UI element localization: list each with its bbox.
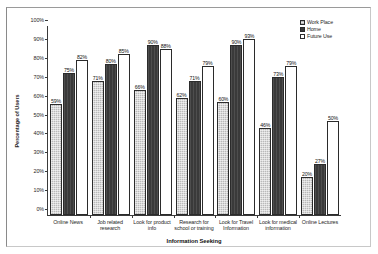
legend-label: Home <box>307 26 321 32</box>
plot-area: 0%10%20%30%40%50%60%70%80%90%100% 59%75%… <box>47 26 341 216</box>
bar-value-label: 59% <box>51 98 61 104</box>
bar[interactable]: 79% <box>285 66 297 215</box>
chart-page: Percentage of Users 0%10%20%30%40%50%60%… <box>0 0 378 254</box>
bar-value-label: 90% <box>148 39 158 45</box>
bar[interactable]: 85% <box>118 54 130 215</box>
legend-item[interactable]: Future Use <box>300 33 333 39</box>
bar-group: 71%80%85% <box>90 26 132 215</box>
legend-label: Future Use <box>307 33 332 39</box>
bar-groups: 59%75%82%71%80%85%66%90%88%62%71%79%60%9… <box>48 26 341 215</box>
bar-value-label: 50% <box>328 115 338 121</box>
bar-value-label: 66% <box>135 84 145 90</box>
legend-swatch-icon <box>300 20 305 25</box>
bar-value-label: 79% <box>286 60 296 66</box>
bar-value-label: 90% <box>231 39 241 45</box>
x-axis-title: Information Seeking <box>47 238 341 244</box>
x-axis-categories: Online NewsJob related researchLook for … <box>47 219 341 232</box>
y-axis-tick: 10% <box>34 187 49 193</box>
x-axis-category-label: Look for medical information <box>257 219 299 232</box>
bar-value-label: 75% <box>64 67 74 73</box>
bar[interactable]: 88% <box>160 49 172 215</box>
bar[interactable]: 62% <box>176 98 188 215</box>
bar-value-label: 60% <box>218 96 228 102</box>
bar[interactable]: 93% <box>243 39 255 215</box>
y-axis-tick: 50% <box>34 112 49 118</box>
bar[interactable]: 80% <box>105 64 117 215</box>
y-axis-tick: 30% <box>34 149 49 155</box>
bar-value-label: 85% <box>119 48 129 54</box>
bar-value-label: 88% <box>161 43 171 49</box>
bar[interactable]: 50% <box>327 121 339 216</box>
bar[interactable]: 46% <box>259 128 271 215</box>
legend-item[interactable]: Home <box>300 26 333 32</box>
bar-group: 20%27%50% <box>299 26 341 215</box>
bar[interactable]: 75% <box>63 73 75 215</box>
bar-group: 60%90%93% <box>215 26 257 215</box>
bar-group: 46%73%79% <box>257 26 299 215</box>
legend-swatch-icon <box>300 34 305 39</box>
bar[interactable]: 66% <box>134 90 146 215</box>
bar[interactable]: 71% <box>189 81 201 215</box>
bar-group: 62%71%79% <box>174 26 216 215</box>
bar[interactable]: 73% <box>272 77 284 215</box>
y-axis-title: Percentage of Users <box>14 26 26 216</box>
y-axis-tick: 90% <box>34 36 49 42</box>
bar[interactable]: 71% <box>92 81 104 215</box>
y-axis-tick: 0% <box>36 206 48 212</box>
bar-value-label: 27% <box>315 158 325 164</box>
bar[interactable]: 90% <box>230 45 242 215</box>
bar-value-label: 82% <box>77 54 87 60</box>
chart-legend: Work PlaceHomeFuture Use <box>300 19 333 39</box>
bar[interactable]: 60% <box>217 102 229 215</box>
bar-value-label: 20% <box>302 171 312 177</box>
y-axis-tick: 20% <box>34 168 49 174</box>
legend-label: Work Place <box>307 19 333 25</box>
legend-swatch-icon <box>300 27 305 32</box>
x-axis-category-label: Job related research <box>89 219 131 232</box>
y-axis-tick: 60% <box>34 93 49 99</box>
bar-value-label: 93% <box>244 33 254 39</box>
bar[interactable]: 82% <box>76 60 88 215</box>
bar[interactable]: 20% <box>301 177 313 215</box>
bar-value-label: 73% <box>273 71 283 77</box>
bar-value-label: 46% <box>260 122 270 128</box>
bar[interactable]: 59% <box>50 104 62 216</box>
legend-item[interactable]: Work Place <box>300 19 333 25</box>
bar-value-label: 80% <box>106 58 116 64</box>
bar[interactable]: 27% <box>314 164 326 215</box>
x-axis-category-label: Look for Travel Information <box>215 219 257 232</box>
bar-value-label: 71% <box>190 75 200 81</box>
bar[interactable]: 90% <box>147 45 159 215</box>
x-axis-category-label: Research for school or training <box>173 219 215 232</box>
y-axis-tick: 80% <box>34 55 49 61</box>
bar[interactable]: 79% <box>202 66 214 215</box>
x-axis-category-label: Online News <box>47 219 89 232</box>
x-axis-category-label: Look for product info <box>131 219 173 232</box>
bar-value-label: 62% <box>177 92 187 98</box>
y-axis-tick: 100% <box>31 17 48 23</box>
bar-group: 66%90%88% <box>132 26 174 215</box>
bar-value-label: 71% <box>93 75 103 81</box>
x-axis-category-label: Online Lectures <box>299 219 341 232</box>
y-axis-tick: 70% <box>34 74 49 80</box>
bar-group: 59%75%82% <box>48 26 90 215</box>
bar-value-label: 79% <box>203 60 213 66</box>
y-axis-tick: 40% <box>34 130 49 136</box>
